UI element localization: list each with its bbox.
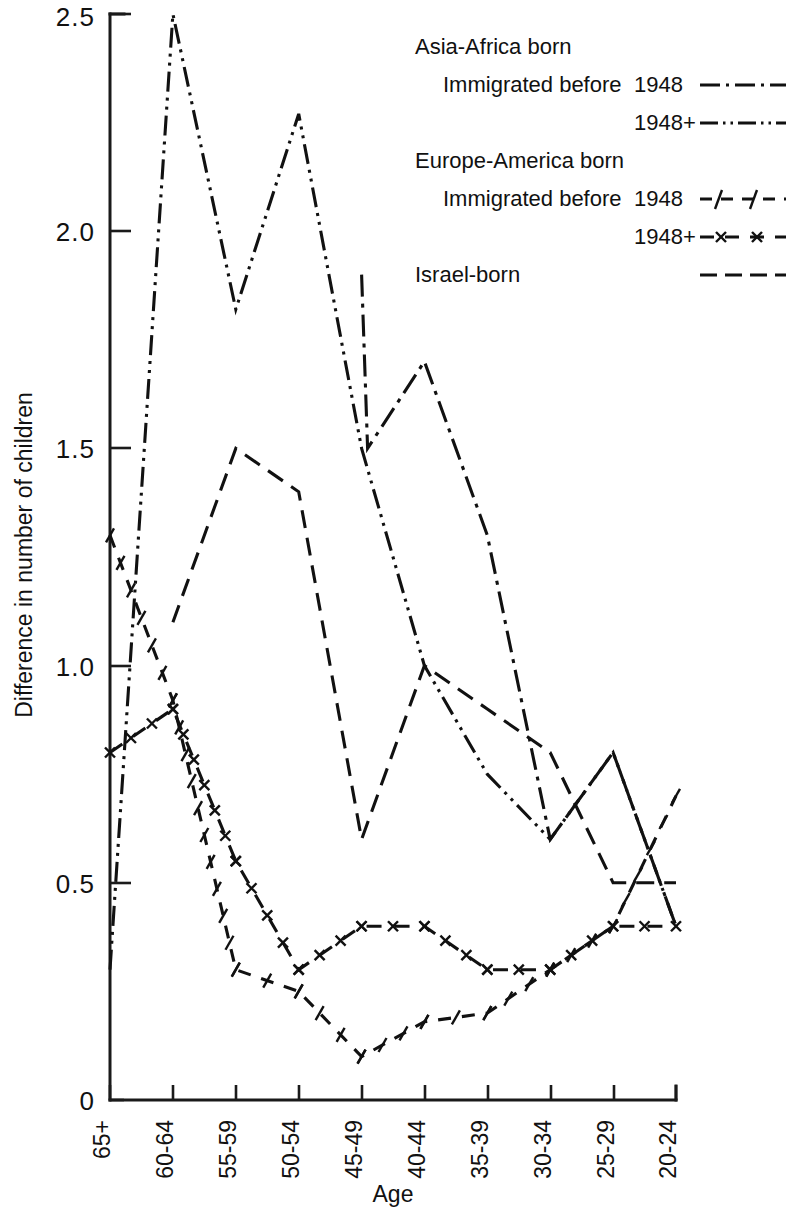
series-3 xyxy=(106,528,680,1063)
legend-swatch-ea-1948-plus xyxy=(700,232,786,242)
x-tick-label: 60-64 xyxy=(152,1120,178,1179)
legend-label-ea-before-year: 1948 xyxy=(634,186,683,211)
series-line xyxy=(173,448,676,882)
legend-label-ea-before-prefix: Immigrated before xyxy=(443,186,622,211)
legend-group-asia-africa: Asia-Africa born xyxy=(415,34,572,59)
slash-marker xyxy=(672,789,680,803)
x-tick-label: 50-54 xyxy=(278,1120,304,1179)
y-tick-label: 1.5 xyxy=(56,434,95,464)
x-tick-label: 30-34 xyxy=(530,1120,556,1179)
legend-label-aa-after-year: 1948+ xyxy=(634,110,696,135)
y-tick-labels: 0 0.5 1.0 1.5 2.0 2.5 xyxy=(56,2,95,1116)
y-tick-label: 2.0 xyxy=(56,217,95,247)
x-tick-label: 40-44 xyxy=(404,1120,430,1179)
slash-marker xyxy=(622,893,630,907)
x-tick-label: 45-49 xyxy=(341,1120,367,1179)
chart-svg: 0 0.5 1.0 1.5 2.0 2.5 Difference in numb… xyxy=(0,0,793,1213)
series-5 xyxy=(173,448,676,882)
slash-marker xyxy=(634,867,642,881)
x-tick-label: 25-29 xyxy=(593,1120,619,1179)
legend-group-europe-america: Europe-America born xyxy=(415,148,624,173)
series-1 xyxy=(362,275,676,927)
y-tick-label: 0 xyxy=(80,1086,95,1116)
slash-marker xyxy=(525,977,533,991)
legend-label-aa-before-prefix: Immigrated before xyxy=(443,72,622,97)
y-tick-label: 1.0 xyxy=(56,652,95,682)
slash-marker xyxy=(483,1006,491,1020)
slash-marker xyxy=(452,1010,460,1024)
x-ticks xyxy=(110,1085,676,1100)
y-ticks xyxy=(110,14,131,1100)
x-tick-label: 55-59 xyxy=(215,1120,241,1179)
slash-marker xyxy=(295,984,303,998)
slash-marker xyxy=(504,992,512,1006)
slash-marker xyxy=(659,815,667,829)
series-line xyxy=(362,275,676,927)
legend-label-ea-after-year: 1948+ xyxy=(634,224,696,249)
y-axis-title: Difference in number of children xyxy=(11,392,37,718)
legend: Asia-Africa born Immigrated before 1948 … xyxy=(415,34,786,287)
series-line xyxy=(110,535,676,1056)
y-tick-label: 2.5 xyxy=(56,2,95,32)
legend-label-aa-before-year: 1948 xyxy=(634,72,683,97)
slash-marker xyxy=(232,963,240,977)
x-tick-label: 35-39 xyxy=(467,1120,493,1179)
y-tick-label: 0.5 xyxy=(56,869,95,899)
x-tick-labels: 65+ 60-64 55-59 50-54 45-49 40-44 35-39 … xyxy=(89,1120,681,1179)
legend-group-israel-born: Israel-born xyxy=(415,262,520,287)
x-tick-label: 65+ xyxy=(89,1120,115,1159)
legend-swatch-ea-before-1948 xyxy=(700,190,786,209)
x-axis-title: Age xyxy=(373,1181,414,1207)
figure-root: 0 0.5 1.0 1.5 2.0 2.5 Difference in numb… xyxy=(0,0,793,1213)
x-tick-label: 20-24 xyxy=(655,1120,681,1179)
